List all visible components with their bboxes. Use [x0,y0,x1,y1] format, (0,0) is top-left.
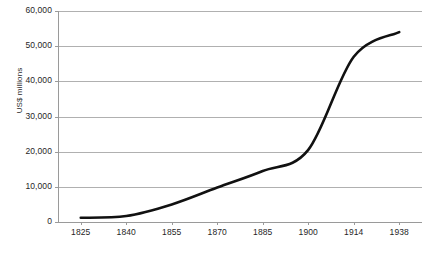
x-axis-tick-labels: 18251840185518701885190019141938 [0,0,426,266]
x-axis-tick-label: 1900 [288,228,328,237]
x-axis-tick-label: 1855 [152,228,192,237]
x-axis-tick-label: 1825 [61,228,101,237]
x-axis-tick-label: 1870 [197,228,237,237]
chart-container: US$ millions 60,00050,00040,00030,00020,… [0,0,426,266]
x-axis-tick-label: 1914 [334,228,374,237]
x-axis-tick-label: 1938 [379,228,419,237]
x-axis-tick-label: 1885 [243,228,283,237]
x-axis-tick-label: 1840 [106,228,146,237]
